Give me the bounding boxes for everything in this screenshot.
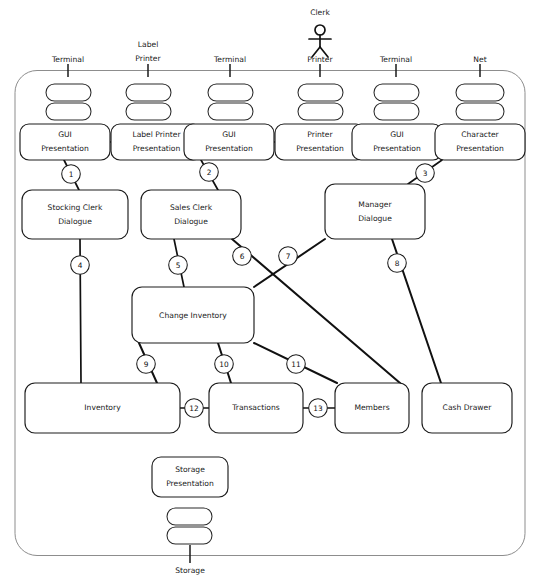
connection-number: 1 [69,170,74,179]
node-label-line2: Presentation [205,144,253,153]
device-layer-storage-upper [167,508,212,525]
node-label-line1: Stocking Clerk [48,203,103,212]
store-nodes: Inventory Transactions Members Cash Draw… [25,383,512,433]
ext-label-terminal-1: Terminal [51,55,84,64]
device-layer-terminal-1-lower [46,103,91,120]
node-storage-presentation[interactable]: Storage Presentation [152,457,228,497]
external-device-labels: Terminal Label Printer Terminal Printer … [51,40,487,77]
connection-badge-6[interactable]: 6 [233,247,252,266]
connection-lines [64,142,442,408]
node-label-line2: Dialogue [58,217,92,226]
node-manager-dialogue[interactable]: Manager Dialogue [325,184,425,239]
connection-badge-12[interactable]: 12 [185,399,204,418]
node-sales-clerk-dialogue[interactable]: Sales Clerk Dialogue [141,190,241,239]
node-label-line1: Printer [307,130,333,139]
connection-badge-1[interactable]: 1 [62,165,81,184]
node-label: Cash Drawer [443,403,493,412]
ext-label-net: Net [473,55,486,64]
connection-number: 6 [240,252,245,261]
connection-number: 4 [78,261,83,270]
device-layer-terminal-3-upper [374,84,419,101]
node-change-inventory[interactable]: Change Inventory [132,287,254,343]
node-label: Members [354,403,389,412]
connector-line-6 [232,239,400,383]
node-label-line2: Presentation [166,479,214,488]
connection-number: 7 [286,252,291,261]
connection-number: 10 [219,360,229,369]
connection-badge-4[interactable]: 4 [71,256,90,275]
node-inventory[interactable]: Inventory [25,383,180,433]
device-layer-net-lower [456,103,504,120]
connection-number: 2 [207,168,212,177]
node-transactions[interactable]: Transactions [209,383,303,433]
connection-badge-7[interactable]: 7 [279,247,298,266]
connection-badge-8[interactable]: 8 [388,254,407,273]
device-layer-terminal-3-lower [374,103,419,120]
diagram-canvas: Clerk Terminal Label Printer Terminal Pr… [0,0,541,588]
node-label-line1: Storage [175,465,205,474]
device-layer-label-printer-lower [126,103,171,120]
ext-label-label-printer-line2: Printer [135,54,161,63]
ext-label-printer: Printer [307,55,333,64]
connection-number: 13 [313,404,323,413]
connection-badge-2[interactable]: 2 [200,163,219,182]
node-cash-drawer[interactable]: Cash Drawer [422,383,512,433]
connection-number: 3 [423,169,428,178]
node-label-line2: Presentation [456,144,504,153]
node-gui-presentation-1[interactable]: GUI Presentation [20,124,110,160]
node-label-line1: GUI [390,130,404,139]
connection-badge-3[interactable]: 3 [416,164,435,183]
node-label-line2: Dialogue [174,217,208,226]
node-label-line1: Label Printer [132,130,181,139]
device-layer-printer-upper [298,84,343,101]
node-label-line2: Dialogue [358,214,392,223]
node-label-line1: Character [461,130,499,139]
node-members[interactable]: Members [335,383,409,433]
device-layer-net-upper [456,84,504,101]
device-layer-terminal-1-upper [46,84,91,101]
connection-badge-5[interactable]: 5 [169,256,188,275]
connection-badge-13[interactable]: 13 [309,399,328,418]
connection-badge-11[interactable]: 11 [287,355,306,374]
connection-number: 9 [144,360,149,369]
node-label-line2: Presentation [133,144,181,153]
node-label-line2: Presentation [296,144,344,153]
architecture-diagram: Clerk Terminal Label Printer Terminal Pr… [0,0,541,588]
node-label: Transactions [231,403,279,412]
connection-number: 11 [291,360,301,369]
ext-label-terminal-3: Terminal [379,55,412,64]
connection-badge-9[interactable]: 9 [137,355,156,374]
device-driver-stacks [46,84,504,120]
storage-section: Storage Presentation Storage [152,457,228,575]
node-label-line2: Presentation [373,144,421,153]
ext-label-storage: Storage [175,566,205,575]
dialogue-nodes: Stocking Clerk Dialogue Sales Clerk Dial… [22,184,425,239]
connection-number: 5 [176,261,181,270]
process-nodes: Change Inventory [132,287,254,343]
presentation-nodes: GUI Presentation Label Printer Presentat… [20,124,525,160]
node-label: Change Inventory [159,311,227,320]
node-stocking-clerk-dialogue[interactable]: Stocking Clerk Dialogue [22,190,128,239]
device-layer-storage-lower [167,527,212,544]
ext-label-terminal-2: Terminal [213,55,246,64]
node-label-line1: Manager [358,200,392,209]
node-gui-presentation-3[interactable]: GUI Presentation [352,124,442,160]
actor-clerk: Clerk [309,8,331,57]
node-label-line1: GUI [222,130,236,139]
ext-label-label-printer-line1: Label [138,40,159,49]
connection-badge-10[interactable]: 10 [215,355,234,374]
device-layer-terminal-2-lower [208,103,253,120]
node-character-presentation[interactable]: Character Presentation [435,124,525,160]
device-layer-printer-lower [298,103,343,120]
actor-label: Clerk [310,8,330,17]
node-gui-presentation-2[interactable]: GUI Presentation [184,124,274,160]
node-label: Inventory [84,403,121,412]
stick-figure-actor-icon [309,25,331,57]
device-layer-label-printer-upper [126,84,171,101]
node-label-line1: Sales Clerk [170,203,213,212]
node-label-line2: Presentation [41,144,89,153]
connection-number: 8 [395,259,400,268]
connection-number: 12 [189,404,198,413]
device-layer-terminal-2-upper [208,84,253,101]
node-label-line1: GUI [58,130,72,139]
